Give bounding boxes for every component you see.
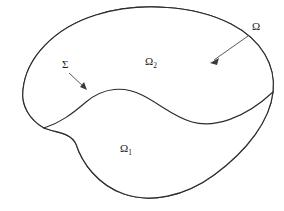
label-outer-domain: Ω	[252, 20, 260, 32]
label-lower-subregion-subscript: 1	[128, 148, 132, 157]
label-lower-subregion-text: Ω	[120, 142, 128, 154]
label-interface: Σ	[62, 58, 68, 70]
label-upper-subregion-subscript: 2	[153, 61, 157, 70]
outer-domain-boundary-overstroke	[23, 7, 274, 198]
label-outer-domain-text: Ω	[252, 20, 260, 32]
label-interface-text: Σ	[62, 58, 68, 70]
domain-decomposition-figure: Ω Ω2 Ω1 Σ	[0, 0, 284, 211]
figure-root: Ω Ω2 Ω1 Σ	[0, 0, 284, 211]
label-upper-subregion-text: Ω	[145, 55, 153, 67]
